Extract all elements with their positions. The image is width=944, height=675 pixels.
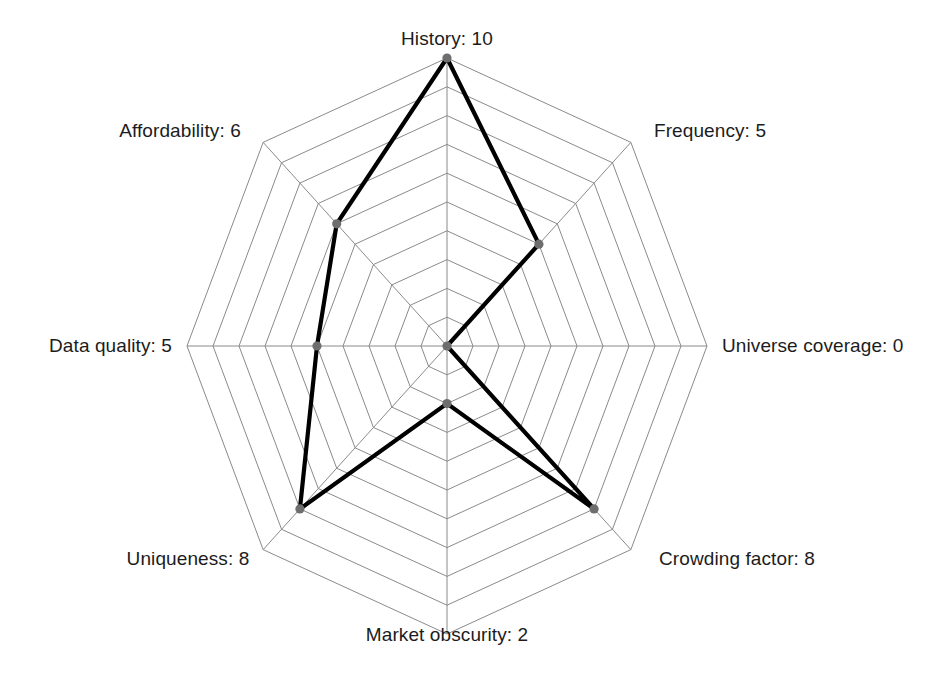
series-marker bbox=[534, 240, 543, 249]
axis-label-history: History: 10 bbox=[401, 28, 493, 50]
series-marker bbox=[442, 399, 451, 408]
axis-label-data-quality: Data quality: 5 bbox=[49, 335, 172, 357]
axis-label-uniqueness: Uniqueness: 8 bbox=[127, 548, 250, 570]
axis-label-affordability: Affordability: 6 bbox=[119, 120, 241, 142]
radar-chart-figure: History: 10Frequency: 5Universe coverage… bbox=[0, 0, 944, 675]
series-marker bbox=[589, 504, 598, 513]
axis-label-frequency: Frequency: 5 bbox=[654, 120, 766, 142]
axis-label-crowding-factor: Crowding factor: 8 bbox=[659, 548, 815, 570]
series-marker bbox=[442, 53, 451, 62]
series-marker bbox=[442, 341, 451, 350]
series-marker bbox=[295, 504, 304, 513]
series-marker bbox=[332, 219, 341, 228]
axis-label-market-obscurity: Market obscurity: 2 bbox=[366, 624, 528, 646]
series-marker bbox=[312, 341, 321, 350]
axis-label-universe-coverage: Universe coverage: 0 bbox=[722, 335, 904, 357]
